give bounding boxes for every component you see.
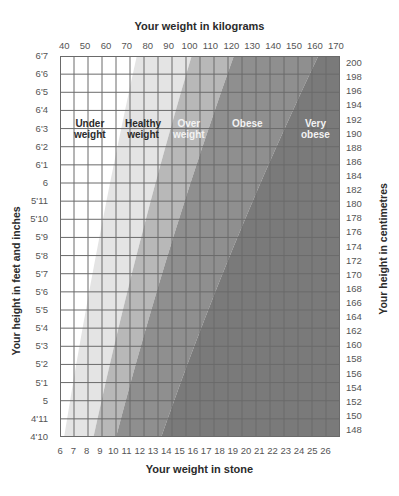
cm-tick: 156 [346, 368, 376, 379]
cm-tick: 172 [346, 255, 376, 266]
cm-tick: 160 [346, 339, 376, 350]
cm-tick: 186 [346, 156, 376, 167]
feet-tick: 5'2 [4, 358, 48, 369]
band-label-obese: Obese [232, 118, 263, 129]
cm-tick: 180 [346, 198, 376, 209]
cm-tick: 148 [346, 424, 376, 435]
cm-tick: 154 [346, 382, 376, 393]
feet-tick: 5'8 [4, 250, 48, 261]
feet-tick: 6'6 [4, 68, 48, 79]
cm-tick: 170 [346, 269, 376, 280]
cm-tick: 182 [346, 184, 376, 195]
feet-tick: 5 [4, 395, 48, 406]
feet-tick: 6'3 [4, 123, 48, 134]
band-label-over-weight: Overweight [173, 118, 205, 140]
band-label-very-obese: Veryobese [301, 118, 330, 140]
cm-tick: 200 [346, 57, 376, 68]
y-axis-title-cm: Your height in centimetres [377, 149, 389, 349]
cm-tick: 188 [346, 142, 376, 153]
cm-tick: 178 [346, 212, 376, 223]
cm-tick: 196 [346, 85, 376, 96]
cm-tick: 184 [346, 170, 376, 181]
feet-tick: 6'1 [4, 159, 48, 170]
feet-tick: 6'7 [4, 50, 48, 61]
cm-tick: 162 [346, 325, 376, 336]
x-axis-title-kg: Your weight in kilograms [0, 20, 399, 32]
cm-tick: 190 [346, 128, 376, 139]
cm-tick: 198 [346, 71, 376, 82]
cm-tick: 176 [346, 226, 376, 237]
cm-tick: 192 [346, 114, 376, 125]
kg-tick: 170 [321, 40, 351, 51]
feet-tick: 5'1 [4, 377, 48, 388]
feet-tick: 6'4 [4, 104, 48, 115]
cm-tick: 158 [346, 353, 376, 364]
feet-tick: 5'9 [4, 231, 48, 242]
cm-tick: 166 [346, 297, 376, 308]
feet-tick: 4'10 [4, 431, 48, 442]
feet-tick: 6'2 [4, 141, 48, 152]
cm-tick: 150 [346, 410, 376, 421]
cm-tick: 152 [346, 396, 376, 407]
stone-tick: 26 [311, 445, 341, 456]
feet-tick: 5'3 [4, 340, 48, 351]
cm-tick: 174 [346, 241, 376, 252]
feet-tick: 5'5 [4, 304, 48, 315]
feet-tick: 5'6 [4, 286, 48, 297]
cm-tick: 194 [346, 99, 376, 110]
feet-tick: 6'5 [4, 86, 48, 97]
feet-tick: 5'4 [4, 322, 48, 333]
band-label-healthy-weight: Healthyweight [125, 118, 161, 140]
feet-tick: 4'11 [4, 413, 48, 424]
bmi-bands-svg [60, 56, 340, 437]
x-axis-title-stone: Your weight in stone [0, 463, 399, 475]
feet-tick: 6 [4, 177, 48, 188]
band-label-under-weight: Underweight [74, 118, 106, 140]
bmi-plot-area [60, 56, 340, 437]
feet-tick: 5'7 [4, 268, 48, 279]
cm-tick: 164 [346, 311, 376, 322]
feet-tick: 5'11 [4, 195, 48, 206]
cm-tick: 168 [346, 283, 376, 294]
feet-tick: 5'10 [4, 213, 48, 224]
